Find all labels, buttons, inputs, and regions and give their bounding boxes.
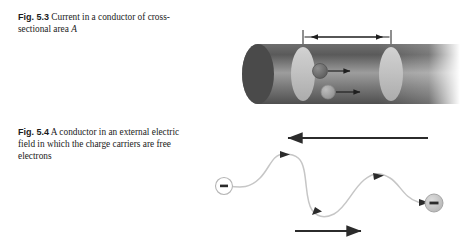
electron-right [425,194,443,212]
figure-5-3-caption-italic-area: A [71,24,77,34]
figure-5-4-illustration: E v d [228,118,460,243]
figure-5-4-number: Fig. 5.4 [18,127,49,137]
delta-x-dimension-line [303,30,391,44]
figure-5-3-caption: Fig. 5.3 Current in a conductor of cross… [18,11,198,35]
trajectory-direction-arrowheads [280,151,429,215]
electron-drift-svg [228,118,460,243]
cross-section-disk-left [291,47,315,101]
cross-section-disk-right-area-A [379,47,403,101]
conductor-cylinder-svg [228,0,460,118]
electron-left [216,178,233,195]
conductor-cylinder-body [242,43,460,105]
figure-5-3-illustration: Δx=vdΔt q vd A [228,0,460,118]
figure-5-3-number: Fig. 5.3 [18,12,49,22]
charge-carrier-q [313,64,328,79]
charge-carrier-secondary [321,85,335,99]
figure-5-4-caption: Fig. 5.4 A conductor in an external elec… [18,126,198,162]
electron-trajectory-path [228,154,428,217]
